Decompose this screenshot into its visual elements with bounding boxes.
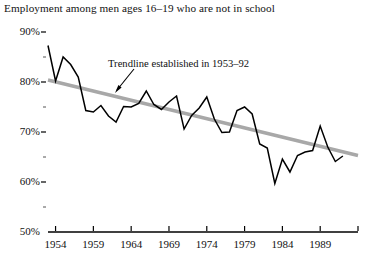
chart-plot-area [0, 0, 368, 266]
chart-container: Employment among men ages 16–19 who are … [0, 0, 368, 266]
trendline [48, 80, 358, 156]
annotation-arrow-icon [115, 69, 134, 93]
x-tick-marks [56, 226, 358, 231]
